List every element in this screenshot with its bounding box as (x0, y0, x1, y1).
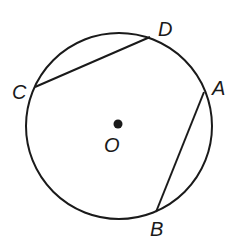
chord-ab (156, 92, 204, 212)
circle-chords-diagram: D C A O B (0, 0, 237, 241)
center-label-o: O (104, 134, 120, 156)
center-point-o (114, 120, 123, 129)
point-label-c: C (12, 81, 27, 103)
point-label-d: D (158, 18, 172, 40)
point-label-b: B (150, 218, 163, 240)
point-label-a: A (211, 77, 225, 99)
